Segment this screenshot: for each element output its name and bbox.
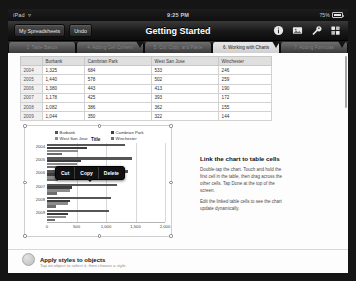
legend-label: Burbank [60, 130, 76, 135]
table-cell-value[interactable]: 1,325 [43, 66, 85, 75]
chart-category-label: 2006 [36, 170, 45, 175]
table-cell-value[interactable]: 259 [219, 75, 272, 84]
chart-bar [47, 219, 55, 221]
device-bezel-bottom [0, 273, 356, 281]
tab-separator-notch [136, 41, 144, 48]
table-row[interactable]: 2004 1,325 684 533 246 [21, 66, 272, 75]
table-row[interactable]: 2007 1,178 425 393 172 [21, 93, 272, 102]
table-cell-value[interactable]: 1,440 [43, 75, 85, 84]
selection-handle-bottom-center[interactable] [98, 234, 101, 237]
table-cell-value[interactable]: 350 [85, 112, 152, 121]
chart-x-tick-label: 1,000 [101, 224, 111, 229]
legend-item-west-san-jose[interactable]: West San Jose [55, 136, 111, 141]
table-header-corner[interactable] [21, 57, 43, 66]
info-panel-paragraph-2: Edit the linked table cells to see the c… [200, 199, 284, 213]
tab-table-basics[interactable]: 3. Table Basics [8, 42, 76, 53]
table-cell-value[interactable]: 1,380 [43, 84, 85, 93]
selection-handle-bottom-left[interactable] [23, 234, 26, 237]
legend-item-winchester[interactable]: Winchester [111, 136, 167, 141]
table-cell-value[interactable]: 533 [151, 66, 218, 75]
table-row[interactable]: 2009 1,044 350 322 144 [21, 112, 272, 121]
chart-category-label: 2009 [36, 210, 45, 215]
table-cell-year[interactable]: 2006 [21, 84, 43, 93]
table-cell-value[interactable]: 1,082 [43, 102, 85, 111]
table-cell-value[interactable]: 322 [151, 112, 218, 121]
legend-swatch-icon [111, 131, 114, 134]
table-cell-value[interactable]: 1,044 [43, 112, 85, 121]
context-menu-copy[interactable]: Copy [75, 167, 99, 179]
chart-bar [47, 153, 62, 155]
table-header-west-san-jose[interactable]: West San Jose [151, 57, 218, 66]
legend-label: Winchester [116, 136, 137, 141]
table-cell-value[interactable]: 393 [151, 93, 218, 102]
legend-item-burbank[interactable]: Burbank [55, 130, 111, 135]
table-cell-value[interactable]: 362 [151, 102, 218, 111]
table-header-burbank[interactable]: Burbank [43, 57, 85, 66]
context-menu-delete[interactable]: Delete [99, 167, 124, 179]
chart-title[interactable]: Title [91, 137, 100, 142]
table-header-row: Burbank Cambrian Park West San Jose Winc… [21, 57, 272, 66]
table-row[interactable]: 2008 1,082 386 362 155 [21, 102, 272, 111]
table-cell-value[interactable]: 413 [151, 84, 218, 93]
info-panel-paragraph-1: Double-tap the chart. Touch and hold the… [200, 167, 284, 195]
bottom-section-subtitle: Tap an object to select it, then choose … [40, 263, 127, 268]
table-cell-year[interactable]: 2009 [21, 112, 43, 121]
table-cell-value[interactable]: 425 [85, 93, 152, 102]
status-bar-right: 75% [319, 12, 343, 18]
table-cell-value[interactable]: 502 [151, 75, 218, 84]
ipad-numbers-app: iPad ▿ 9:25 PM 75% My Spreadsheets Undo … [0, 0, 356, 281]
status-bar: iPad ▿ 9:25 PM 75% [8, 9, 348, 21]
status-bar-clock: 9:25 PM [8, 12, 348, 18]
table-cell-value[interactable]: 1,178 [43, 93, 85, 102]
document-canvas[interactable]: Burbank Cambrian Park West San Jose Winc… [8, 53, 348, 273]
selection-handle-top-left[interactable] [23, 124, 26, 127]
tab-separator-notch [272, 41, 280, 48]
battery-percent-label: 75% [319, 12, 330, 18]
table-header-winchester[interactable]: Winchester [219, 57, 272, 66]
table-cell-year[interactable]: 2007 [21, 93, 43, 102]
chart-category-label: 2007 [36, 184, 45, 189]
edit-context-menu[interactable]: Cut Copy Delete [55, 166, 125, 180]
device-bezel-right [348, 0, 356, 281]
data-table[interactable]: Burbank Cambrian Park West San Jose Winc… [20, 56, 272, 121]
context-menu-cut[interactable]: Cut [56, 167, 75, 179]
info-icon[interactable] [273, 25, 284, 36]
chart-x-tick-label: 2,000 [160, 224, 170, 229]
legend-item-cambrian-park[interactable]: Cambrian Park [111, 130, 167, 135]
selection-handle-top-center[interactable] [98, 124, 101, 127]
table-cell-value[interactable]: 155 [219, 102, 272, 111]
selection-handle-middle-left[interactable] [23, 181, 26, 184]
table-cell-value[interactable]: 172 [219, 93, 272, 102]
media-insert-icon[interactable] [292, 25, 303, 36]
table-cell-year[interactable]: 2008 [21, 102, 43, 111]
tab-cut-copy-paste[interactable]: 5. Cut, Copy, and Paste [144, 42, 212, 53]
chart-bar-group: 2008 [47, 196, 165, 209]
table-cell-year[interactable]: 2005 [21, 75, 43, 84]
tab-working-with-charts[interactable]: 6. Working with Charts [212, 42, 280, 53]
table-cell-value[interactable]: 443 [85, 84, 152, 93]
chart-x-tick-label: 1,500 [130, 224, 140, 229]
vertical-scrollbar[interactable] [345, 56, 347, 108]
table-cell-value[interactable]: 144 [219, 112, 272, 121]
table-header-cambrian-park[interactable]: Cambrian Park [85, 57, 152, 66]
table-cell-year[interactable]: 2004 [21, 66, 43, 75]
chart-bar-group: 2004 [47, 143, 165, 156]
chart-plot-area[interactable]: 05001,0001,5002,000200420052006200720082… [47, 143, 165, 222]
table-cell-value[interactable]: 578 [85, 75, 152, 84]
share-icon[interactable] [330, 25, 341, 36]
tab-adding-cell-content[interactable]: 4. Adding Cell Content [76, 42, 144, 53]
tools-wrench-icon[interactable] [311, 25, 322, 36]
table-cell-value[interactable]: 246 [219, 66, 272, 75]
chart-object[interactable]: Burbank Cambrian Park West San Jose Winc… [24, 125, 172, 237]
chart-x-tick-label: 500 [73, 224, 80, 229]
chart-bar [47, 205, 56, 207]
selection-handle-bottom-right[interactable] [169, 234, 172, 237]
table-row[interactable]: 2006 1,380 443 413 190 [21, 84, 272, 93]
table-cell-value[interactable]: 190 [219, 84, 272, 93]
selection-handle-middle-right[interactable] [169, 181, 172, 184]
table-row[interactable]: 2005 1,440 578 502 259 [21, 75, 272, 84]
table-cell-value[interactable]: 386 [85, 102, 152, 111]
selection-handle-top-right[interactable] [169, 124, 172, 127]
table-cell-value[interactable]: 684 [85, 66, 152, 75]
tab-label: 7. Adding Formulas [294, 45, 334, 50]
